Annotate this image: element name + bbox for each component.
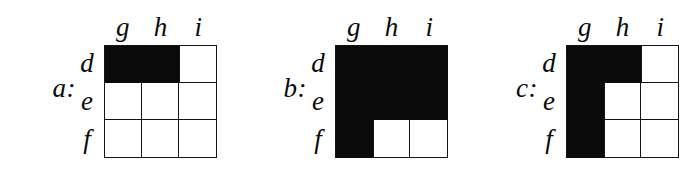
- grid-cell[interactable]: [335, 120, 373, 158]
- grid-cell[interactable]: [373, 120, 411, 158]
- grid-cell[interactable]: [566, 45, 604, 83]
- grid-cell[interactable]: [104, 45, 142, 83]
- row-headers-c: d e f: [536, 45, 562, 158]
- grid-cell[interactable]: [142, 83, 180, 121]
- grid-cell[interactable]: [373, 45, 411, 83]
- column-header-h: h: [142, 8, 180, 42]
- board-group-c: c: g h i d e f: [462, 0, 693, 172]
- column-header-i: i: [410, 8, 448, 42]
- grid-a: [104, 45, 217, 158]
- board-label-c: c:: [492, 75, 538, 102]
- grid-cell[interactable]: [566, 120, 604, 158]
- grid-cell[interactable]: [179, 83, 217, 121]
- grid-cell[interactable]: [604, 45, 642, 83]
- grid-cell[interactable]: [641, 83, 679, 121]
- row-header-f: f: [305, 120, 331, 158]
- grid-cell[interactable]: [104, 120, 142, 158]
- board-group-b: b: g h i d e f: [231, 0, 462, 172]
- grid-b: [335, 45, 448, 158]
- row-headers-b: d e f: [305, 45, 331, 158]
- column-header-g: g: [104, 8, 142, 42]
- board-group-a: a: g h i d e f: [0, 0, 231, 172]
- grid-c: [566, 45, 679, 158]
- grid-cell[interactable]: [566, 83, 604, 121]
- grid-cell[interactable]: [179, 120, 217, 158]
- grid-cell[interactable]: [410, 45, 448, 83]
- grid-cell[interactable]: [410, 120, 448, 158]
- grid-cell[interactable]: [373, 83, 411, 121]
- grid-cell[interactable]: [104, 83, 142, 121]
- column-headers-c: g h i: [566, 8, 679, 42]
- grid-cell[interactable]: [604, 120, 642, 158]
- column-header-i: i: [641, 8, 679, 42]
- board-label-b: b:: [261, 75, 307, 102]
- column-headers-a: g h i: [104, 8, 217, 42]
- grid-diagram-row: a: g h i d e f b: g h i: [0, 0, 694, 172]
- row-header-f: f: [536, 120, 562, 158]
- grid-cell[interactable]: [641, 45, 679, 83]
- row-header-f: f: [74, 120, 100, 158]
- row-header-d: d: [74, 45, 100, 83]
- row-header-e: e: [74, 83, 100, 121]
- column-header-h: h: [604, 8, 642, 42]
- grid-cell[interactable]: [179, 45, 217, 83]
- grid-cell[interactable]: [142, 120, 180, 158]
- column-header-g: g: [335, 8, 373, 42]
- grid-cell[interactable]: [641, 120, 679, 158]
- grid-cell[interactable]: [142, 45, 180, 83]
- column-headers-b: g h i: [335, 8, 448, 42]
- grid-cell[interactable]: [335, 45, 373, 83]
- board-label-a: a:: [30, 75, 76, 102]
- grid-cell[interactable]: [410, 83, 448, 121]
- row-header-d: d: [536, 45, 562, 83]
- grid-cell[interactable]: [335, 83, 373, 121]
- column-header-g: g: [566, 8, 604, 42]
- column-header-h: h: [373, 8, 411, 42]
- row-header-d: d: [305, 45, 331, 83]
- row-header-e: e: [536, 83, 562, 121]
- row-header-e: e: [305, 83, 331, 121]
- grid-cell[interactable]: [604, 83, 642, 121]
- column-header-i: i: [179, 8, 217, 42]
- row-headers-a: d e f: [74, 45, 100, 158]
